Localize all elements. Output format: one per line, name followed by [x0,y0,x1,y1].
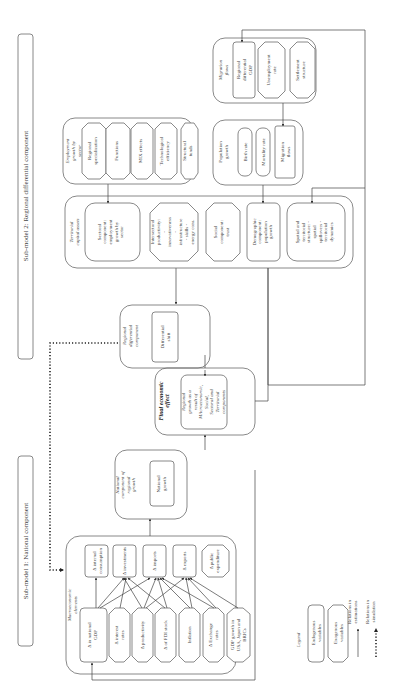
svg-text:Δ imports: Δ imports [152,551,157,571]
driver-productivity: Δ productivity [132,608,153,662]
submodel-1-banner: Sub-model 1: National component [18,456,33,646]
svg-text:Functions: Functions [114,141,119,161]
svg-text:Δ of FDI stock: Δ of FDI stock [163,620,168,650]
legend-simulation-label: Relations insimulation [365,599,376,624]
driver-national-gdp: Δ in nationalGDP [80,608,107,662]
svg-text:Birth rate: Birth rate [243,142,248,162]
svg-text:Nationalcomponent ofregionalgr: Nationalcomponent ofregionalgrowth [115,471,137,499]
svg-text:Mortality rate: Mortality rate [261,137,266,165]
employment-structural-funds: Structuralfunds [181,123,198,179]
svg-text:Employmentgrowth bysector: Employmentgrowth bysector [65,138,81,165]
svg-text:Migrationflows: Migrationflows [218,59,229,81]
migration-settlement-structure: Settlementstructure [290,42,315,98]
legend-estimation-label: Relations inestimations [347,599,358,624]
svg-text:Territorialcapital assets: Territorialcapital assets [69,218,80,245]
driver-gdp-growth-abroad: GDP growth inUSA, Japan andBRICs [227,608,250,662]
national-growth-box: Nationalgrowth [156,475,167,493]
svg-text:Δ exports: Δ exports [182,551,187,570]
final-feedback-line [255,268,268,401]
legend-exogenous-label: Exogenousvariables [333,622,344,644]
territorial-social: Socialcomponent:trust [206,203,240,261]
macroeconomic-title: Macroeconomicelements [67,588,78,622]
territorial-spatial: Spatial andterritorialstructure: -spatia… [287,203,345,261]
submodel-1-label: Sub-model 1: National component [22,503,30,600]
driver-outcome-arrows [96,578,238,608]
submodel-2-label: Sub-model 2: Regional differential compo… [22,131,30,262]
legend-endogenous-label: Endogenousvariables [311,621,322,646]
model-diagram: Sub-model 2: Regional differential compo… [0,0,398,697]
svg-text:Δ internalconsumption: Δ internalconsumption [92,548,103,574]
employment-mix-effects: MIX effects [131,123,153,179]
regional-differential-group: Regionaldifferentialcomponent Differenti… [120,305,210,368]
submodel-2-banner: Sub-model 2: Regional differential compo… [18,34,33,359]
svg-text:Inflation: Inflation [187,626,192,644]
svg-text:Regionaldifferentialcomponent: Regionaldifferentialcomponent [122,324,138,347]
territorial-demographic: Demographiccomponent:populationgrowth [247,203,280,261]
driver-interest-rates: Δ interestrates [109,608,130,662]
final-effect-title: Final economiceffect [158,381,170,420]
population-mortality-rate: Mortality rate [256,128,270,176]
legend: Legend Endogenousvariables Exogenousvari… [296,599,378,662]
territorial-sectoral: Sectoralcomponent:employmentgrowth bysec… [85,203,140,261]
svg-text:MIX effects: MIX effects [138,139,143,163]
employment-regional-specialization: Regionalspecialization [82,123,106,179]
outcome-investments: Δ investments [113,545,136,577]
population-migration-flows: Migrationflows [275,126,295,178]
svg-text:Settlementstructure: Settlementstructure [295,59,306,81]
outcome-public-expenditure: Δ publicexpenditure [202,545,229,577]
outcome-exports: Δ exports [173,545,196,577]
outcome-imports: Δ imports [143,545,166,577]
svg-text:Populationgrowth: Populationgrowth [218,141,229,163]
national-component-group: Nationalcomponent ofregionalgrowth Natio… [115,450,187,519]
driver-inflation: Inflation [179,608,200,662]
population-birth-rate: Birth rate [238,128,252,176]
employment-functions: Functions [106,123,130,179]
territorial-intersectoral: Intersectoralproductivity:-innovativenes… [150,203,198,261]
outcome-internal-consumption: Δ internalconsumption [85,545,108,577]
final-effect-group: Final economiceffect Regionalgrowth as a… [155,368,255,435]
migration-regional-gdp: RegionaldifferentialGDP [233,42,255,98]
spatial-feedback-arrow [312,188,365,203]
migration-unemployment-rate: Unemploymentrate [258,42,285,98]
svg-text:Δ investments: Δ investments [122,547,127,575]
driver-fdi-stock: Δ of FDI stock [155,608,176,662]
legend-title: Legend [296,632,301,648]
svg-text:Δ productivity: Δ productivity [140,620,145,649]
driver-exchange-rates: Δ Exchangerates [203,608,224,662]
employment-technological-efficiency: Technologicalefficiency [155,123,177,179]
